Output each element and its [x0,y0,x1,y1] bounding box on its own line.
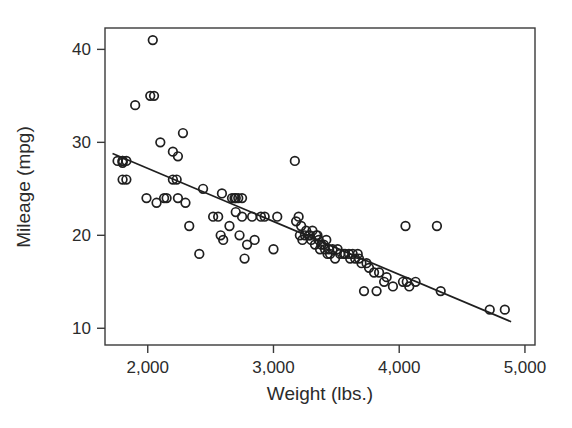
data-point [185,222,194,231]
x-axis-title: Weight (lbs.) [267,383,373,404]
data-point [269,245,278,254]
plot-area-border [105,28,535,345]
x-tick-label: 3,000 [252,358,295,377]
data-point [389,282,398,291]
x-tick-label: 4,000 [378,358,421,377]
data-point [218,189,227,198]
data-point [360,287,369,296]
x-axis-tick-group: 2,0003,0004,0005,000 [126,345,546,377]
data-points-layer [113,36,509,314]
y-axis-title: Mileage (mpg) [13,126,34,247]
data-point [225,222,234,231]
data-point [250,236,259,245]
y-tick-label: 10 [72,319,91,338]
x-tick-label: 5,000 [504,358,547,377]
data-point [501,305,510,314]
data-point [195,250,204,259]
data-point [156,138,165,147]
x-tick-label: 2,000 [126,358,169,377]
data-point [181,198,190,207]
trendline-layer [113,154,512,322]
data-point [238,212,247,221]
data-point [273,212,282,221]
regression-trendline [113,154,512,322]
plot-frame [105,28,535,345]
y-tick-label: 30 [72,133,91,152]
y-tick-label: 40 [72,40,91,59]
data-point [131,101,140,110]
data-point [372,287,381,296]
data-point [433,222,442,231]
data-point [148,36,157,45]
data-point [179,129,188,138]
y-tick-label: 20 [72,226,91,245]
data-point [291,157,300,166]
data-point [401,222,410,231]
data-point [142,194,151,203]
data-point [240,254,249,263]
data-point [235,231,244,240]
scatter-plot-figure: 10203040 2,0003,0004,0005,000 Weight (lb… [0,0,572,428]
y-axis-tick-group: 10203040 [72,40,105,338]
